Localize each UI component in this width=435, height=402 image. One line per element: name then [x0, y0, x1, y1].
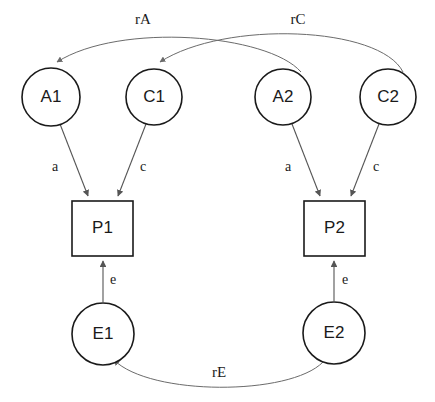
edge-label-e1-p1: e [110, 272, 116, 287]
path-diagram-svg: A1 C1 A2 C2 P1 P2 E1 E2 [0, 0, 435, 402]
node-e2-label: E2 [324, 323, 345, 342]
edge-a2-to-p2 [292, 124, 320, 196]
node-p1[interactable]: P1 [72, 201, 133, 256]
node-p2-label: P2 [324, 218, 345, 237]
node-p2[interactable]: P2 [304, 201, 365, 256]
edge-label-c1-p1: c [140, 159, 146, 174]
correlation-label-rE: rE [212, 364, 226, 380]
edge-label-c2-p2: c [373, 159, 379, 174]
node-c2-label: C2 [377, 87, 399, 106]
correlation-labels: rA rC rE [135, 11, 305, 380]
path-diagram-canvas: A1 C1 A2 C2 P1 P2 E1 E2 [0, 0, 435, 402]
node-c1-label: C1 [143, 87, 165, 106]
correlation-label-rA: rA [135, 11, 151, 27]
node-p1-label: P1 [92, 218, 113, 237]
correlation-curve-rA [57, 37, 301, 72]
edge-label-e2-p2: e [342, 272, 348, 287]
node-a1-label: A1 [41, 87, 62, 106]
correlation-curve-rC [160, 34, 403, 72]
node-c1[interactable]: C1 [126, 69, 182, 125]
correlation-label-rC: rC [291, 11, 306, 27]
edge-label-a1-p1: a [52, 159, 59, 174]
node-e2[interactable]: E2 [303, 302, 365, 364]
node-a2[interactable]: A2 [255, 69, 311, 125]
node-c2[interactable]: C2 [360, 69, 416, 125]
edge-a1-to-p1 [60, 124, 88, 196]
edge-label-a2-p2: a [285, 159, 292, 174]
node-e1-label: E1 [93, 324, 114, 343]
node-a2-label: A2 [273, 87, 294, 106]
node-e1[interactable]: E1 [72, 303, 134, 365]
node-a1[interactable]: A1 [22, 68, 80, 126]
